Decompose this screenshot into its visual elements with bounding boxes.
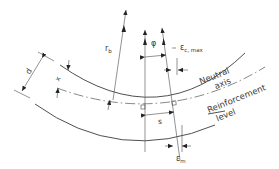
neutral-depth-label: x bbox=[54, 75, 63, 83]
bottom-face-curve bbox=[35, 104, 215, 141]
phi-tilted-mid-arrow bbox=[162, 38, 166, 45]
phi-dimension-line bbox=[145, 55, 166, 57]
strain-m-label: εm bbox=[176, 154, 186, 164]
angle-label: φ bbox=[151, 39, 156, 48]
neutral-depth-dimension-line-2 bbox=[57, 88, 58, 98]
right-angle-mark-left bbox=[141, 105, 145, 109]
radius-label: rb bbox=[105, 44, 112, 54]
crack-spacing-label: s bbox=[158, 117, 162, 126]
crack-spacing-dimension-line bbox=[146, 112, 174, 115]
neutral-depth-dimension-line bbox=[68, 60, 69, 70]
radius-mid-arrow bbox=[122, 25, 127, 32]
depth-extension-bottom bbox=[14, 90, 30, 98]
radius-line bbox=[113, 10, 126, 100]
phi-vertical-mid-arrow bbox=[143, 38, 147, 45]
neutral-axis-label: Neutral axis bbox=[198, 65, 235, 95]
strain-c-max-label: εc, max bbox=[180, 43, 204, 53]
depth-label: d bbox=[24, 67, 34, 76]
beam-curvature-diagram: rb φ εc, max d x s εm Neutral axis Reinf… bbox=[0, 0, 279, 169]
depth-extension-top bbox=[38, 52, 54, 61]
